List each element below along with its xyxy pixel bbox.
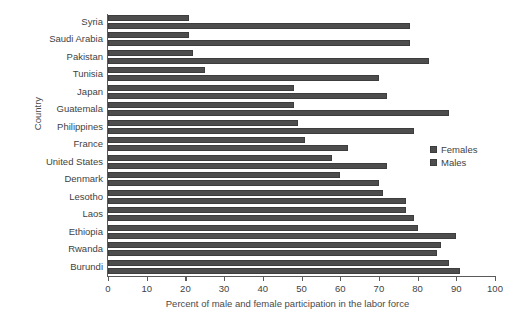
x-tick-label: 60 <box>335 283 346 294</box>
x-tick-label: 50 <box>296 283 307 294</box>
x-tick-label: 90 <box>451 283 462 294</box>
bar-females <box>108 32 189 38</box>
bar-females <box>108 15 189 21</box>
bar-group: Saudi Arabia <box>108 32 495 49</box>
legend-label: Males <box>441 157 466 168</box>
bar-males <box>108 198 406 204</box>
bar-females <box>108 242 441 248</box>
category-label: Lesotho <box>69 189 103 204</box>
bar-females <box>108 85 294 91</box>
x-tick <box>302 277 303 281</box>
legend-item: Females <box>430 143 477 155</box>
bar-group: Laos <box>108 207 495 224</box>
x-tick-label: 0 <box>105 283 110 294</box>
category-label: United States <box>46 154 103 169</box>
bar-group: Syria <box>108 15 495 32</box>
x-tick-label: 20 <box>180 283 191 294</box>
bar-males <box>108 145 348 151</box>
bar-group: Philippines <box>108 120 495 137</box>
x-tick-label: 100 <box>487 283 503 294</box>
legend: FemalesMales <box>430 143 477 169</box>
bar-males <box>108 23 410 29</box>
bar-group: Pakistan <box>108 50 495 67</box>
bar-males <box>108 180 379 186</box>
bar-males <box>108 128 414 134</box>
bar-males <box>108 40 410 46</box>
bar-group: Rwanda <box>108 242 495 259</box>
category-label: Philippines <box>57 119 103 134</box>
bar-males <box>108 268 460 274</box>
x-tick-label: 70 <box>374 283 385 294</box>
legend-swatch-icon <box>430 159 437 166</box>
category-label: Tunisia <box>73 66 103 81</box>
bar-females <box>108 225 418 231</box>
bar-females <box>108 260 449 266</box>
bar-group: Tunisia <box>108 67 495 84</box>
x-tick <box>185 277 186 281</box>
x-tick <box>418 277 419 281</box>
category-label: Syria <box>81 14 103 29</box>
category-label: France <box>73 136 103 151</box>
bar-males <box>108 250 437 256</box>
bar-females <box>108 172 340 178</box>
category-label: Ethiopia <box>69 224 103 239</box>
category-label: Denmark <box>64 171 103 186</box>
bar-females <box>108 50 193 56</box>
bar-males <box>108 110 449 116</box>
bar-females <box>108 190 383 196</box>
category-label: Guatemala <box>57 101 103 116</box>
x-tick <box>224 277 225 281</box>
legend-swatch-icon <box>430 146 437 153</box>
bar-females <box>108 120 298 126</box>
x-tick <box>263 277 264 281</box>
bar-males <box>108 215 414 221</box>
bar-group: Burundi <box>108 260 495 277</box>
bar-females <box>108 155 332 161</box>
x-tick <box>495 277 496 281</box>
bar-group: Japan <box>108 85 495 102</box>
x-tick-label: 30 <box>219 283 230 294</box>
bar-females <box>108 137 305 143</box>
category-label: Burundi <box>70 259 103 274</box>
bar-group: Ethiopia <box>108 225 495 242</box>
bar-females <box>108 102 294 108</box>
x-tick <box>340 277 341 281</box>
legend-label: Females <box>441 144 477 155</box>
category-label: Japan <box>77 84 103 99</box>
bar-females <box>108 67 205 73</box>
bar-males <box>108 93 387 99</box>
x-tick <box>456 277 457 281</box>
bar-group: Guatemala <box>108 102 495 119</box>
category-label: Saudi Arabia <box>49 31 103 46</box>
bar-males <box>108 75 379 81</box>
category-label: Laos <box>82 206 103 221</box>
y-axis-title: Country <box>32 79 43 149</box>
bar-chart: Country SyriaSaudi ArabiaPakistanTunisia… <box>0 0 515 325</box>
bar-males <box>108 163 387 169</box>
bar-females <box>108 207 406 213</box>
x-tick <box>147 277 148 281</box>
bar-group: Lesotho <box>108 190 495 207</box>
bar-males <box>108 58 429 64</box>
category-label: Pakistan <box>67 49 103 64</box>
x-tick <box>108 277 109 281</box>
x-tick <box>379 277 380 281</box>
x-tick-label: 10 <box>141 283 152 294</box>
bar-males <box>108 233 456 239</box>
category-label: Rwanda <box>68 241 103 256</box>
x-axis-title: Percent of male and female participation… <box>0 298 515 309</box>
x-tick-label: 40 <box>258 283 269 294</box>
bar-group: Denmark <box>108 172 495 189</box>
x-tick-label: 80 <box>412 283 423 294</box>
legend-item: Males <box>430 156 477 168</box>
